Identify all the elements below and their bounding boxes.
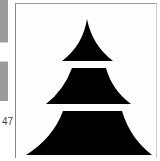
tree-icon — [0, 0, 160, 161]
